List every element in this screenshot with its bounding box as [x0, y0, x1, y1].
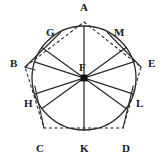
center-point-marker — [81, 75, 88, 82]
chord-b-to-g — [25, 33, 61, 68]
label-M: M — [114, 27, 124, 38]
label-C: C — [36, 143, 44, 154]
label-A: A — [80, 2, 88, 13]
label-F: F — [79, 62, 86, 73]
label-H: H — [24, 98, 33, 109]
geometry-figure: A G M B E F H L C K D — [0, 0, 167, 162]
label-E: E — [148, 58, 155, 69]
label-D: D — [122, 143, 130, 154]
label-K: K — [80, 143, 89, 154]
label-B: B — [10, 58, 17, 69]
label-G: G — [46, 27, 55, 38]
label-L: L — [136, 98, 143, 109]
geometry-canvas — [0, 0, 167, 162]
center-marker-group — [81, 75, 88, 82]
